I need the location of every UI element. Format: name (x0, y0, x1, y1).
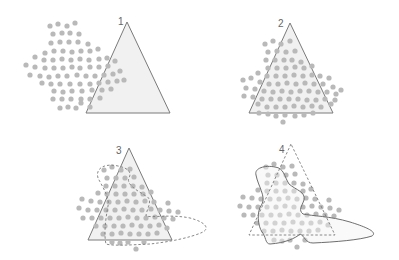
panel-label-4: 4 (279, 144, 285, 155)
panel-label-2: 2 (278, 18, 284, 29)
panel-label-3: 3 (116, 145, 122, 156)
panel-label-1: 1 (118, 16, 124, 27)
hull-outline-4 (256, 166, 374, 244)
panel-4 (237, 144, 373, 250)
diagram-canvas (0, 0, 399, 260)
panel-2 (240, 23, 343, 125)
panel-3 (76, 148, 206, 252)
panel-1 (23, 20, 170, 113)
